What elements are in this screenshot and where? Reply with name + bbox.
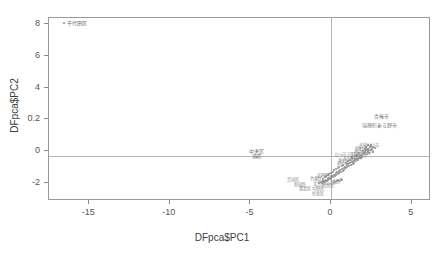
- y-tick-mark: [44, 118, 48, 119]
- x-tick-label: -15: [82, 207, 95, 217]
- y-tick-mark: [44, 150, 48, 151]
- x-tick-label: -10: [162, 207, 175, 217]
- x-tick-label: -5: [245, 207, 253, 217]
- scatter-plot-figure: 千代田区中央区港区青梅市瑞穂町ある野市渋谷区新宿区豊島区台東区文京区中野区杉並区…: [0, 0, 444, 254]
- y-tick-mark: [44, 23, 48, 24]
- y-tick-mark: [44, 182, 48, 183]
- zero-hline: [49, 156, 429, 157]
- point-label: 府中市: [337, 162, 349, 166]
- x-tick-mark: [411, 200, 412, 204]
- plot-area: 千代田区中央区港区青梅市瑞穂町ある野市渋谷区新宿区豊島区台東区文京区中野区杉並区…: [48, 17, 430, 200]
- point-label: 杉並区: [312, 191, 324, 195]
- data-point: [63, 22, 65, 24]
- x-tick-label: 5: [408, 207, 413, 217]
- y-tick-mark: [44, 87, 48, 88]
- data-point: [341, 179, 343, 181]
- point-label: 港区: [252, 154, 262, 159]
- point-label: 千代田区: [67, 20, 87, 25]
- y-tick-mark: [44, 55, 48, 56]
- point-label: 瑞穂町ある野市: [362, 123, 397, 128]
- point-label: 青梅市: [374, 114, 389, 119]
- point-label: 豊島区: [299, 187, 311, 191]
- x-tick-mark: [169, 200, 170, 204]
- x-tick-mark: [330, 200, 331, 204]
- x-tick-mark: [88, 200, 89, 204]
- x-tick-label: 0: [328, 207, 333, 217]
- y-axis-title: DFpca$PC2: [9, 46, 20, 166]
- point-label: 目黒区: [322, 184, 334, 188]
- x-axis-title: DFpca$PC1: [0, 232, 444, 243]
- y-tick-label: 8: [14, 18, 40, 28]
- x-tick-mark: [249, 200, 250, 204]
- y-tick-label: -2: [14, 177, 40, 187]
- point-label: 武蔵野市: [317, 174, 333, 178]
